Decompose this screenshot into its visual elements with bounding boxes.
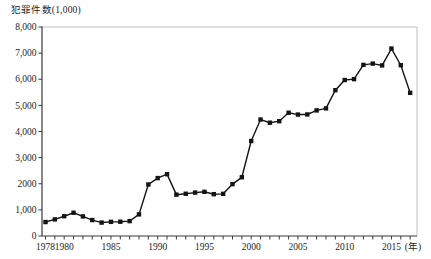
x-axis-unit-label: (年) bbox=[405, 241, 421, 253]
data-point-marker bbox=[230, 182, 234, 186]
data-point-marker bbox=[146, 182, 150, 186]
data-point-marker bbox=[90, 218, 94, 222]
data-point-marker bbox=[240, 175, 244, 179]
x-tick-label: 1985 bbox=[101, 242, 120, 252]
data-point-marker bbox=[184, 192, 188, 196]
data-point-marker bbox=[296, 112, 300, 116]
data-point-marker bbox=[361, 63, 365, 67]
crime-trend-chart: 犯罪件数(1,000) 01,00020003,0004,0005,0006,0… bbox=[0, 0, 431, 259]
data-point-marker bbox=[53, 217, 57, 221]
x-tick-label: 1978 bbox=[36, 242, 55, 252]
data-point-marker bbox=[137, 212, 141, 216]
y-tick-label: 2000 bbox=[18, 179, 37, 189]
x-tick-label: 2000 bbox=[242, 242, 261, 252]
data-point-marker bbox=[268, 120, 272, 124]
data-point-marker bbox=[109, 220, 113, 224]
y-tick-label: 4,000 bbox=[15, 127, 37, 137]
x-tick-label: 1995 bbox=[195, 242, 214, 252]
line-plot-canvas: 01,00020003,0004,0005,0006,0007,0008,000… bbox=[0, 0, 431, 259]
data-point-marker bbox=[343, 78, 347, 82]
data-point-marker bbox=[156, 176, 160, 180]
y-tick-label: 3,000 bbox=[15, 153, 37, 163]
y-tick-label: 7,000 bbox=[15, 48, 37, 58]
data-point-marker bbox=[62, 214, 66, 218]
y-tick-label: 5,000 bbox=[15, 101, 37, 111]
x-tick-label: 2010 bbox=[335, 242, 354, 252]
data-point-marker bbox=[174, 192, 178, 196]
data-point-marker bbox=[324, 106, 328, 110]
data-point-marker bbox=[389, 46, 393, 50]
x-tick-label: 2015 bbox=[382, 242, 401, 252]
data-point-marker bbox=[99, 220, 103, 224]
data-point-marker bbox=[202, 190, 206, 194]
data-point-marker bbox=[212, 192, 216, 196]
data-point-marker bbox=[43, 220, 47, 224]
x-tick-label: 2005 bbox=[288, 242, 307, 252]
data-point-marker bbox=[127, 219, 131, 223]
y-tick-label: 6,000 bbox=[15, 74, 37, 84]
y-tick-label: 0 bbox=[32, 231, 37, 241]
data-point-marker bbox=[165, 172, 169, 176]
data-point-marker bbox=[286, 111, 290, 115]
data-point-marker bbox=[305, 112, 309, 116]
y-tick-label: 8,000 bbox=[15, 22, 37, 32]
data-point-marker bbox=[333, 88, 337, 92]
crime-series-line bbox=[46, 49, 411, 223]
data-point-marker bbox=[380, 63, 384, 67]
data-point-marker bbox=[71, 211, 75, 215]
y-tick-label: 1,000 bbox=[15, 205, 37, 215]
data-point-marker bbox=[249, 139, 253, 143]
data-point-marker bbox=[352, 77, 356, 81]
data-point-marker bbox=[221, 192, 225, 196]
data-point-marker bbox=[258, 117, 262, 121]
data-point-marker bbox=[193, 190, 197, 194]
x-tick-label: 1980 bbox=[55, 242, 74, 252]
x-tick-label: 1990 bbox=[148, 242, 167, 252]
data-point-marker bbox=[314, 108, 318, 112]
data-point-marker bbox=[408, 91, 412, 95]
data-point-marker bbox=[399, 63, 403, 67]
data-point-marker bbox=[118, 220, 122, 224]
data-point-marker bbox=[81, 214, 85, 218]
data-point-marker bbox=[371, 61, 375, 65]
data-point-marker bbox=[277, 119, 281, 123]
